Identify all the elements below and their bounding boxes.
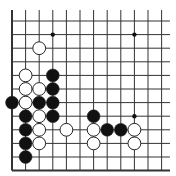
white-stone[interactable]: [19, 96, 32, 109]
white-stone[interactable]: [33, 42, 46, 55]
white-stone[interactable]: [128, 137, 141, 150]
go-board-grid: [0, 0, 176, 176]
white-stone[interactable]: [128, 123, 141, 136]
black-stone[interactable]: [33, 96, 46, 109]
black-stone[interactable]: [101, 123, 114, 136]
white-stone[interactable]: [33, 123, 46, 136]
white-stone[interactable]: [33, 83, 46, 96]
white-stone[interactable]: [19, 83, 32, 96]
star-point: [132, 32, 136, 36]
white-stone[interactable]: [87, 137, 100, 150]
white-stone[interactable]: [60, 123, 73, 136]
black-stone[interactable]: [19, 123, 32, 136]
black-stone[interactable]: [19, 151, 32, 164]
black-stone[interactable]: [114, 123, 127, 136]
black-stone[interactable]: [6, 96, 19, 109]
white-stone[interactable]: [19, 69, 32, 82]
black-stone[interactable]: [46, 110, 59, 123]
black-stone[interactable]: [87, 110, 100, 123]
star-point: [132, 114, 136, 118]
black-stone[interactable]: [46, 83, 59, 96]
black-stone[interactable]: [46, 96, 59, 109]
white-stone[interactable]: [33, 137, 46, 150]
white-stone[interactable]: [87, 123, 100, 136]
white-stone[interactable]: [33, 110, 46, 123]
black-stone[interactable]: [19, 110, 32, 123]
go-board: [0, 0, 176, 176]
star-point: [51, 32, 55, 36]
black-stone[interactable]: [46, 69, 59, 82]
black-stone[interactable]: [19, 137, 32, 150]
